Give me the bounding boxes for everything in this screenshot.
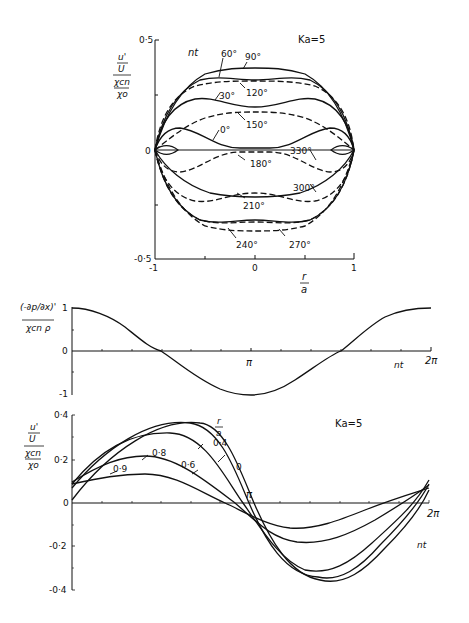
middle-y-tick-m1: -1 [59, 389, 68, 399]
middle-chart [72, 307, 431, 395]
label-ra-08: 0·8 [152, 448, 167, 458]
bottom-ra-num: r [217, 416, 222, 426]
bottom-y-tick-04: 0·4 [54, 410, 69, 420]
middle-pi-label: π [246, 357, 253, 368]
bottom-2pi-label: 2π [427, 508, 440, 519]
label-150deg: 150° [246, 120, 268, 130]
top-y-tick-05: 0·5 [139, 35, 153, 45]
bottom-y-label-xo: χo [27, 460, 39, 470]
middle-y-tick-0: 0 [62, 346, 68, 356]
bottom-chart [72, 415, 429, 590]
curve-330deg [155, 150, 354, 197]
label-30deg: 30° [219, 91, 235, 101]
curve-150deg [155, 112, 354, 150]
label-240deg: 240° [236, 240, 258, 250]
middle-2pi-label: 2π [425, 355, 438, 366]
top-y-label-U: U [118, 64, 125, 74]
label-120deg: 120° [246, 88, 268, 98]
top-x-label-den: a [301, 284, 307, 295]
bottom-y-tick-m04: -0·4 [49, 585, 67, 595]
label-270deg: 270° [289, 240, 311, 250]
top-ka-label: Ka=5 [298, 34, 325, 45]
top-chart [155, 40, 354, 259]
curve-0deg [155, 128, 354, 150]
label-60deg: 60° [221, 49, 237, 59]
top-y-label-u: u' [118, 52, 126, 62]
label-180deg: 180° [250, 159, 272, 169]
bottom-ka-label: Ka=5 [335, 418, 362, 429]
label-90deg: 90° [245, 52, 261, 62]
label-ra-06: 0·6 [181, 460, 196, 470]
top-nt-label: nt [188, 47, 199, 58]
bottom-nt-label: nt [417, 540, 427, 550]
top-y-tick-0: 0 [145, 146, 151, 156]
curve-ra-04 [72, 422, 429, 578]
top-chart-labels: Ka=5 nt 0·5 0 -0·5 -1 0 1 r a u' U χcn χ… [113, 34, 357, 295]
top-x-tick-0: 0 [252, 263, 258, 273]
middle-y-tick-1: 1 [62, 303, 68, 313]
bottom-pi-label: π [246, 489, 253, 500]
label-210deg: 210° [243, 201, 265, 211]
label-0deg: 0° [220, 125, 230, 135]
label-ra-04: 0·4 [213, 438, 228, 448]
top-y-label-xcn: χcn [113, 77, 130, 87]
bottom-y-label-u: u' [30, 422, 38, 432]
bottom-y-label-xcn: χcn [24, 448, 41, 458]
middle-nt-label: nt [394, 360, 404, 370]
bottom-ra-den: a [216, 428, 222, 438]
figure: Ka=5 nt 0·5 0 -0·5 -1 0 1 r a u' U χcn χ… [0, 0, 469, 623]
middle-y-label-den: χcn ρ [25, 323, 51, 333]
label-330deg: 330° [290, 146, 312, 156]
curve-ra-0 [72, 422, 429, 581]
bottom-y-tick-02: 0·2 [54, 455, 68, 465]
middle-y-label-num: (-∂p/∂x)' [20, 302, 56, 312]
bottom-y-tick-0: 0 [63, 498, 69, 508]
top-x-tick-m1: -1 [149, 263, 158, 273]
label-300deg: 300° [293, 183, 315, 193]
curve-210deg [155, 150, 354, 202]
label-ra-09: 0·9 [113, 464, 128, 474]
top-y-label-xo: χo [116, 89, 128, 99]
bottom-y-label-U: U [29, 434, 36, 444]
top-x-label-num: r [302, 271, 307, 282]
label-ra-0: 0 [236, 462, 242, 472]
bottom-y-tick-m02: -0·2 [49, 541, 67, 551]
top-x-tick-1: 1 [351, 263, 357, 273]
